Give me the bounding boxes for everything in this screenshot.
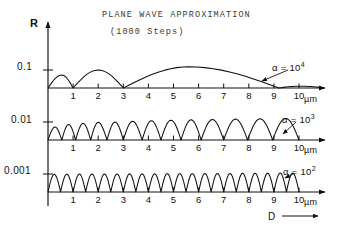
data-curves xyxy=(48,67,324,192)
x-tick-label: 5 xyxy=(171,194,176,205)
x-tick-label: 3 xyxy=(121,142,126,153)
x-tick-label: 10 xyxy=(294,194,305,205)
x-tick-label: 9 xyxy=(271,194,276,205)
x-tick-label: 9 xyxy=(271,90,276,101)
x-tick-label: 8 xyxy=(246,142,251,153)
x-tick-label: 4 xyxy=(146,90,151,101)
x-tick-label: 2 xyxy=(96,142,101,153)
leader-line-panel-3 xyxy=(285,174,293,178)
x-tick-label: 7 xyxy=(221,194,226,205)
x-tick-label: 4 xyxy=(146,194,151,205)
x-tick-label: 10 xyxy=(294,90,305,101)
x-tick-label: 2 xyxy=(96,194,101,205)
x-tick-label: 5 xyxy=(171,142,176,153)
x-tick-label: 4 xyxy=(146,142,151,153)
x-tick-label: 1 xyxy=(70,90,75,101)
x-tick-label: 9 xyxy=(271,142,276,153)
x-tick-label: 7 xyxy=(221,142,226,153)
x-tick-label: 7 xyxy=(221,90,226,101)
plot-canvas: 123456789101234567891012345678910 xyxy=(0,0,342,232)
x-tick-label: 10 xyxy=(294,142,305,153)
x-tick-label: 8 xyxy=(246,90,251,101)
x-tick-label: 1 xyxy=(70,194,75,205)
figure-plane-wave-approximation: PLANE WAVE APPROXIMATION (1000 Steps) R … xyxy=(0,0,342,232)
x-tick-label: 5 xyxy=(171,90,176,101)
x-tick-label: 2 xyxy=(96,90,101,101)
leader-line-panel-1 xyxy=(262,70,288,81)
x-tick-label: 8 xyxy=(246,194,251,205)
x-tick-label: 6 xyxy=(196,194,201,205)
x-tick-label: 3 xyxy=(121,194,126,205)
x-tick-label: 1 xyxy=(70,142,75,153)
x-tick-label: 6 xyxy=(196,90,201,101)
panel-alpha-1e4 xyxy=(48,67,324,88)
x-tick-label: 3 xyxy=(121,90,126,101)
x-tick-label: 6 xyxy=(196,142,201,153)
